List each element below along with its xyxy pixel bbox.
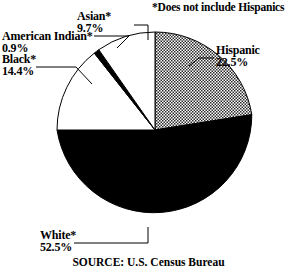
- pie-label-hispanic-value: 22.5%: [216, 56, 260, 68]
- source-text: SOURCE: U.S. Census Bureau: [0, 256, 297, 267]
- pie-label-black-value: 14.4%: [2, 65, 36, 77]
- pie-label-american-indian: American Indian* 0.9%: [2, 30, 92, 54]
- pie-chart-figure: *Does not include Hispanics Asian* 9.7% …: [0, 0, 297, 267]
- leader-line-white: [74, 227, 148, 243]
- footnote-text: *Does not include Hispanics: [152, 2, 284, 14]
- pie-label-black: Black* 14.4%: [2, 53, 36, 77]
- pie-label-white-value: 52.5%: [40, 241, 76, 253]
- pie-label-white: White* 52.5%: [40, 229, 76, 253]
- pie-label-hispanic: Hispanic 22.5%: [216, 44, 260, 68]
